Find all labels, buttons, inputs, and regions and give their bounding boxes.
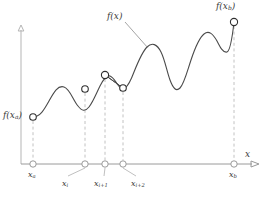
- drop-lines: [33, 26, 234, 160]
- tick-label-x-i-p2: xi+2: [131, 180, 145, 188]
- x-axis: [21, 161, 259, 167]
- diagram-canvas: [0, 0, 265, 199]
- tick-label-x-i-p1: xi+1: [94, 180, 108, 188]
- curve-marker-x-b: [230, 18, 237, 25]
- tick-label-x-b: xb: [229, 171, 237, 179]
- curve-markers: [30, 18, 238, 120]
- function-sampling-diagram: f(xa) f(x) f(xb) x xa xi xi+1 xi+2 xb: [0, 0, 265, 199]
- axis-marker-x-i-p2: [120, 161, 126, 167]
- curve-label-leader: [125, 22, 148, 48]
- tick-label-x-a: xa: [28, 171, 36, 179]
- tick-label-leaders: [68, 168, 136, 176]
- curve-marker-x-i: [82, 86, 89, 93]
- axis-marker-x-a: [30, 161, 36, 167]
- label-f-x: f(x): [107, 12, 122, 21]
- tick-leader-x-i-p1: [104, 168, 105, 176]
- label-f-xb: f(xb): [216, 2, 235, 11]
- label-f-xa: f(xa): [3, 111, 22, 120]
- function-curve: [33, 22, 234, 117]
- tick-leader-x-i-p2: [123, 168, 136, 176]
- axis-marker-x-i: [82, 161, 88, 167]
- tick-leader-x-i: [68, 168, 85, 176]
- curve-marker-x-a: [30, 114, 37, 121]
- axis-marker-x-i-p1: [102, 161, 108, 167]
- label-x-axis: x: [245, 150, 250, 159]
- curve-marker-x-i-p1: [101, 71, 108, 78]
- curve-marker-x-i-p2: [120, 85, 127, 92]
- axis-marker-x-b: [231, 161, 237, 167]
- y-axis: [18, 25, 24, 164]
- tick-label-x-i: xi: [62, 180, 68, 188]
